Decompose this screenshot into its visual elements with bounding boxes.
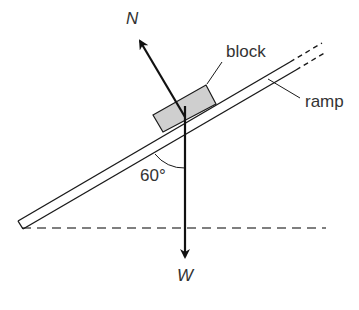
angle-label: 60° (140, 166, 166, 185)
ramp-diagram: N block ramp 60° W (0, 0, 359, 310)
normal-force-label: N (126, 9, 139, 28)
ramp-label: ramp (305, 92, 344, 111)
normal-force-arrow (140, 41, 185, 117)
block-label: block (226, 42, 266, 61)
weight-label: W (177, 266, 195, 285)
ramp-leader-line (268, 79, 300, 98)
block-leader-line (207, 62, 222, 84)
ramp (18, 43, 326, 229)
